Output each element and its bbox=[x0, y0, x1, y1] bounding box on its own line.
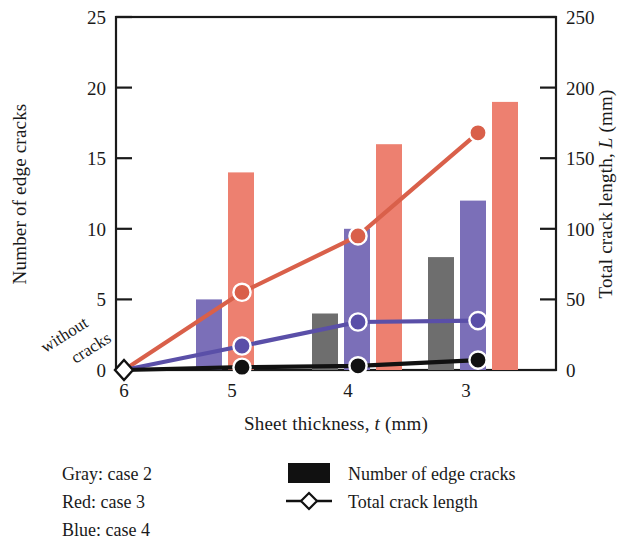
bar-red-t4 bbox=[376, 144, 402, 370]
x-tick-label: 4 bbox=[343, 380, 353, 401]
marker-blue bbox=[349, 313, 366, 330]
marker-red bbox=[349, 227, 366, 244]
chart-svg: 0 5 10 15 20 25 0 50 100 150 200 250 6 bbox=[0, 0, 628, 552]
legend-case-label: Red: case 3 bbox=[62, 492, 145, 512]
bar-blue-t4 bbox=[344, 229, 370, 370]
legend-bar-swatch-icon bbox=[288, 463, 330, 483]
marker-red bbox=[469, 124, 486, 141]
legend-key-label: Total crack length bbox=[348, 492, 478, 512]
bar-blue-t3 bbox=[460, 201, 486, 370]
marker-black bbox=[233, 359, 250, 376]
x-axis-title: Sheet thickness, t (mm) bbox=[244, 413, 428, 435]
x-tick-label: 6 bbox=[119, 380, 129, 401]
y2-tick-label: 200 bbox=[566, 78, 595, 99]
legend-line-diamond-marker-icon bbox=[286, 493, 332, 509]
y-axis-left-title: Number of edge cracks bbox=[9, 104, 30, 285]
marker-blue bbox=[469, 312, 486, 329]
y-tick-label: 0 bbox=[97, 360, 107, 381]
legend-cases: Gray: case 2 Red: case 3 Blue: case 4 bbox=[62, 464, 152, 540]
bar-gray-t3 bbox=[428, 257, 454, 370]
y-tick-label: 10 bbox=[87, 219, 106, 240]
y-tick-label: 20 bbox=[87, 78, 106, 99]
chart-figure: 0 5 10 15 20 25 0 50 100 150 200 250 6 bbox=[0, 0, 628, 552]
legend-case-label: Blue: case 4 bbox=[62, 520, 150, 540]
y2-tick-label: 50 bbox=[566, 289, 585, 310]
y-axis-right-title: Total crack length, L (mm) bbox=[595, 89, 617, 298]
x-tick-label: 5 bbox=[227, 380, 237, 401]
x-axis-tick-labels: 6 5 4 3 bbox=[119, 380, 471, 401]
legend-key-label: Number of edge cracks bbox=[348, 464, 515, 484]
y-axis-left-tick-labels: 0 5 10 15 20 25 bbox=[87, 7, 106, 381]
y2-tick-label: 250 bbox=[566, 7, 595, 28]
marker-blue bbox=[233, 337, 250, 354]
legend-keys: Number of edge cracks Total crack length bbox=[286, 463, 515, 512]
legend-case-label: Gray: case 2 bbox=[62, 464, 152, 484]
y-tick-label: 5 bbox=[97, 289, 107, 310]
y-tick-label: 15 bbox=[87, 148, 106, 169]
marker-black bbox=[349, 357, 366, 374]
bar-red-t3 bbox=[492, 102, 518, 370]
y2-tick-label: 150 bbox=[566, 148, 595, 169]
y2-tick-label: 100 bbox=[566, 219, 595, 240]
marker-black bbox=[469, 352, 486, 369]
bar-gray-t4 bbox=[312, 314, 338, 371]
y-axis-right-tick-labels: 0 50 100 150 200 250 bbox=[566, 7, 595, 381]
y-tick-label: 25 bbox=[87, 7, 106, 28]
x-tick-label: 3 bbox=[461, 380, 471, 401]
y2-tick-label: 0 bbox=[566, 360, 576, 381]
marker-red bbox=[233, 284, 250, 301]
